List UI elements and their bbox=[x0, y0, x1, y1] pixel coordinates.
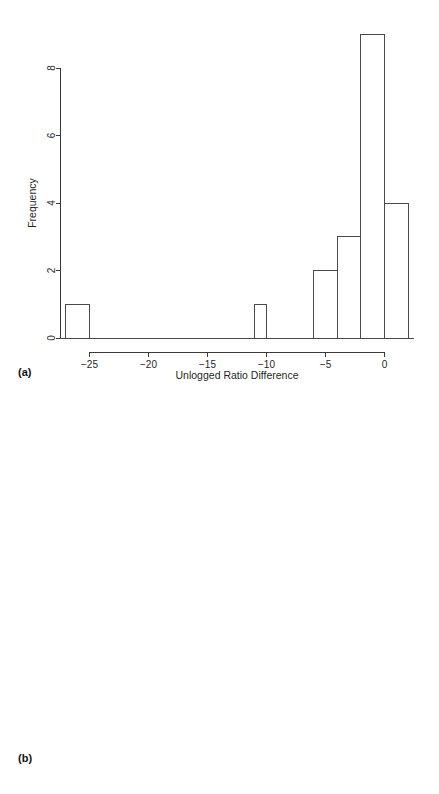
histogram-bar bbox=[255, 304, 267, 338]
histogram-b-canvas: 02468Frequency−4−3−2−101Logged Ratio Dif… bbox=[0, 400, 439, 794]
x-axis-title: Unlogged Ratio Difference bbox=[176, 369, 299, 381]
x-tick-label: −20 bbox=[140, 359, 157, 370]
y-tick-label: 8 bbox=[46, 65, 57, 71]
histogram-bar bbox=[385, 203, 409, 338]
x-tick-label: 0 bbox=[382, 359, 388, 370]
histogram-bar bbox=[361, 34, 385, 338]
y-tick-label: 0 bbox=[46, 335, 57, 341]
histogram-a-canvas: 02468Frequency−25−20−15−10−50Unlogged Ra… bbox=[0, 0, 439, 400]
panel-b-label: (b) bbox=[18, 752, 32, 764]
y-axis-title: Frequency bbox=[26, 177, 38, 227]
y-tick-label: 4 bbox=[46, 200, 57, 206]
histogram-bar bbox=[66, 304, 90, 338]
panel-a-label: (a) bbox=[18, 366, 31, 378]
x-tick-label: −5 bbox=[320, 359, 332, 370]
plot-group: 02468Frequency−25−20−15−10−50Unlogged Ra… bbox=[26, 34, 414, 381]
y-tick-label: 6 bbox=[46, 132, 57, 138]
histogram-panel-a: 02468Frequency−25−20−15−10−50Unlogged Ra… bbox=[0, 0, 439, 400]
y-tick-label: 2 bbox=[46, 267, 57, 273]
histogram-bar bbox=[337, 237, 361, 338]
histogram-bar bbox=[314, 271, 338, 339]
x-tick-label: −25 bbox=[81, 359, 98, 370]
histogram-panel-b: 02468Frequency−4−3−2−101Logged Ratio Dif… bbox=[0, 400, 439, 794]
